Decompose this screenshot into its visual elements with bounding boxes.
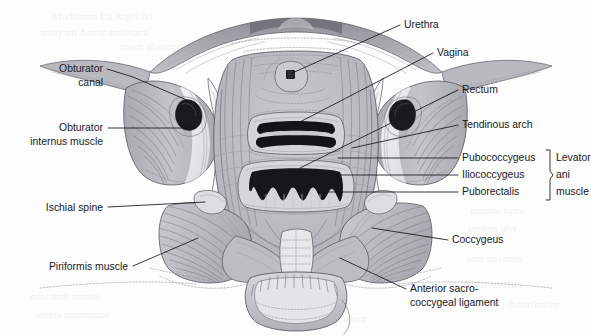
svg-text:ansiyam Asnur anulvana: ansiyam Asnur anulvana bbox=[40, 26, 148, 38]
label-puborectalis-line-1: Puborectalis bbox=[462, 186, 519, 197]
label-tendinous-arch-line-1: Tendinous arch bbox=[462, 119, 533, 130]
label-piriformis-muscle-line-1: Piriformis muscle bbox=[49, 261, 128, 272]
label-tendinous-arch: Tendinous arch bbox=[462, 119, 533, 130]
levator-ani-brace bbox=[546, 150, 553, 200]
label-piriformis-muscle: Piriformis muscle bbox=[49, 261, 128, 272]
svg-text:ulnnlu umnumuan: ulnnlu umnumuan bbox=[36, 309, 109, 320]
levator-ani-label-line-3: muscle bbox=[556, 186, 589, 197]
label-obturator-internus-muscle-line-2: internus muscle bbox=[30, 136, 103, 147]
obturator-internus-left bbox=[124, 81, 219, 190]
label-rectum: Rectum bbox=[462, 84, 498, 95]
label-rectum-line-1: Rectum bbox=[462, 84, 498, 95]
levator-ani-label-line-1: Levator bbox=[556, 152, 591, 163]
label-urethra-line-1: Urethra bbox=[404, 19, 439, 30]
coccyx bbox=[245, 272, 350, 334]
svg-text:sunlrun ulvr: sunlrun ulvr bbox=[468, 223, 517, 234]
label-vagina-line-1: Vagina bbox=[437, 47, 469, 58]
label-puborectalis: Puborectalis bbox=[462, 186, 519, 197]
vaginal-hiatus bbox=[248, 110, 345, 158]
label-ischial-spine-line-1: Ischial spine bbox=[46, 202, 103, 213]
label-coccygeus-line-1: Coccygeus bbox=[452, 234, 503, 245]
label-pubococcygeus-line-1: Pubococcygeus bbox=[462, 152, 535, 163]
svg-text:Mudhuma Lu Atgis ikt: Mudhuma Lu Atgis ikt bbox=[52, 10, 153, 22]
levator-ani-label-line-2: ani bbox=[556, 169, 570, 180]
label-urethra: Urethra bbox=[404, 19, 439, 30]
pelvic-floor-illustration: Mudhuma Lu Atgis ikt ansiyam Asnur anulv… bbox=[0, 0, 591, 336]
rectal-hiatus bbox=[238, 158, 354, 214]
anatomy-figure: Mudhuma Lu Atgis ikt ansiyam Asnur anulv… bbox=[0, 0, 591, 336]
label-obturator-internus-muscle: Obturator internus muscle bbox=[30, 122, 103, 147]
levator-ani-brace-group: Levator ani muscle bbox=[546, 150, 591, 200]
svg-text:mint mnlr munan: mint mnlr munan bbox=[30, 291, 99, 302]
svg-text:murn ahantnys: murn ahantnys bbox=[120, 40, 185, 52]
svg-text:unur mivnuns: unur mivnuns bbox=[466, 253, 521, 264]
label-vagina: Vagina bbox=[437, 47, 469, 58]
label-iliococcygeus-line-1: Iliococcygeus bbox=[462, 169, 524, 180]
label-obturator-canal-line-1: Obturator bbox=[59, 63, 103, 74]
svg-text:Anurilmivn: Anurilmivn bbox=[508, 298, 560, 310]
obturator-internus-right bbox=[373, 81, 468, 190]
svg-text:mnurlai nyim: mnurlai nyim bbox=[470, 205, 524, 216]
label-pubococcygeus: Pubococcygeus bbox=[462, 152, 535, 163]
label-obturator-internus-muscle-line-1: Obturator bbox=[59, 122, 103, 133]
label-anterior-sacrococcygeal-ligament-line-1: Anterior sacro- bbox=[410, 283, 478, 294]
label-iliococcygeus: Iliococcygeus bbox=[462, 169, 524, 180]
label-obturator-canal-line-2: canal bbox=[78, 77, 103, 88]
label-ischial-spine: Ischial spine bbox=[46, 202, 103, 213]
label-coccygeus: Coccygeus bbox=[452, 234, 503, 245]
label-anterior-sacrococcygeal-ligament-line-2: coccygeal ligament bbox=[410, 297, 498, 308]
anterior-sacrococcygeal-ligament bbox=[280, 229, 313, 279]
